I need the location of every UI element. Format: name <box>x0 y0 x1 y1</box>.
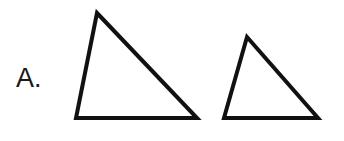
triangles-drawing <box>0 0 344 141</box>
large-triangle-shape <box>76 13 197 118</box>
figure-canvas: A. <box>0 0 344 141</box>
item-label-a: A. <box>16 63 42 93</box>
small-triangle-shape <box>224 37 318 118</box>
